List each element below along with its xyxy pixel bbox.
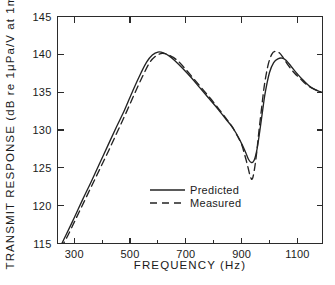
y-tick-label-145: 145 [33,11,52,23]
series-line-measured [61,51,321,248]
y-tick-label-130: 130 [33,124,52,136]
x-tick-label-700: 700 [176,248,195,260]
legend-label-measured: Measured [190,197,241,209]
y-tick-label-120: 120 [33,200,52,212]
plot-frame [58,17,323,244]
y-tick-label-135: 135 [33,86,52,98]
y-tick-label-140: 140 [33,48,52,60]
tick-marks [58,17,323,244]
x-tick-label-900: 900 [232,248,251,260]
x-axis-title: FREQUENCY (Hz) [134,259,246,271]
y-tick-label-115: 115 [33,238,51,250]
chart-canvas: 1151201251301351401453005007009001100 Pr… [0,0,335,285]
axes [58,17,323,244]
y-tick-label-125: 125 [33,162,52,174]
x-tick-label-300: 300 [65,248,84,260]
data-series [60,51,321,248]
series-line-predicted [60,52,321,248]
x-tick-label-1100: 1100 [285,248,309,260]
chart-legend: PredictedMeasured [150,184,241,209]
transmit-response-chart-figure: 1151201251301351401453005007009001100 Pr… [0,0,335,285]
legend-label-predicted: Predicted [190,184,239,196]
y-axis-title: TRANSMIT RESPONSE (dB re 1μPa/V at 1m) [4,0,16,269]
x-tick-label-500: 500 [121,248,140,260]
